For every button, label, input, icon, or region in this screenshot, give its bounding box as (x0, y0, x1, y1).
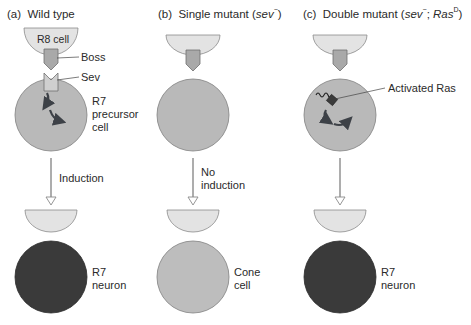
r7-neuron-cell (304, 241, 376, 313)
label-line: neuron (92, 279, 126, 292)
r7-neuron-cell (15, 241, 87, 313)
gene-superscript: − (274, 6, 278, 13)
label-line: neuron (381, 279, 415, 292)
panel-c-double-mutant (304, 35, 385, 313)
induction-label: Induction (59, 172, 104, 185)
r7-precursor-cell (304, 79, 376, 151)
r7-neuron-label: R7 neuron (92, 266, 126, 292)
cone-cell (157, 241, 229, 313)
r8-cell-bottom (25, 210, 77, 232)
panel-b-title: (b) Single mutant (sev−) (158, 8, 282, 20)
label-line: R7 (92, 266, 126, 279)
boss-ligand (44, 49, 58, 70)
sev-leader-line (57, 77, 79, 80)
gene-name: sev (405, 8, 423, 20)
r7-precursor-label: R7 precursor cell (92, 95, 138, 134)
label-line: precursor (92, 108, 138, 121)
panel-a-title: (a) Wild type (7, 8, 75, 20)
title-suffix: ) (278, 8, 282, 20)
boss-label: Boss (81, 51, 105, 64)
label-line: cell (92, 121, 138, 134)
gene-superscript-2: D (453, 6, 458, 13)
panel-a-wild-type (15, 28, 87, 313)
label-line: cell (234, 279, 260, 292)
r7-precursor-cell (157, 79, 229, 151)
label-line: Cone (234, 266, 260, 279)
title-suffix: ) (459, 8, 463, 20)
gene-superscript: − (423, 6, 427, 13)
arrowhead (335, 197, 345, 205)
no-induction-arrowhead (188, 197, 198, 205)
boss-leader-line (57, 57, 79, 58)
label-line: induction (201, 179, 245, 192)
panel-title-text: Wild type (27, 8, 74, 20)
boss-ligand (333, 50, 347, 71)
induction-arrowhead (46, 197, 56, 205)
boss-ligand (186, 50, 200, 71)
r7-neuron-label: R7 neuron (381, 266, 415, 292)
activated-ras-label: Activated Ras (388, 82, 456, 95)
label-line: R7 (92, 95, 138, 108)
r8-cell-bottom (314, 210, 366, 232)
panel-letter: (b) (158, 8, 172, 20)
panel-letter: (a) (7, 8, 21, 20)
r8-cell-bottom (167, 210, 219, 232)
sev-label: Sev (81, 71, 100, 84)
r8-cell-label: R8 cell (37, 33, 69, 46)
gene-name: sev (256, 8, 274, 20)
panel-title-text: Double mutant ( (323, 8, 405, 20)
gene-name-2: Ras (433, 8, 453, 20)
label-line: No (201, 166, 245, 179)
panel-title-text: Single mutant ( (178, 8, 255, 20)
panel-letter: (c) (303, 8, 316, 20)
sev-receptor (44, 73, 58, 91)
label-line: R7 (381, 266, 415, 279)
panel-c-title: (c) Double mutant (sev−; RasD) (303, 8, 462, 20)
no-induction-label: No induction (201, 166, 245, 192)
cone-cell-label: Cone cell (234, 266, 260, 292)
